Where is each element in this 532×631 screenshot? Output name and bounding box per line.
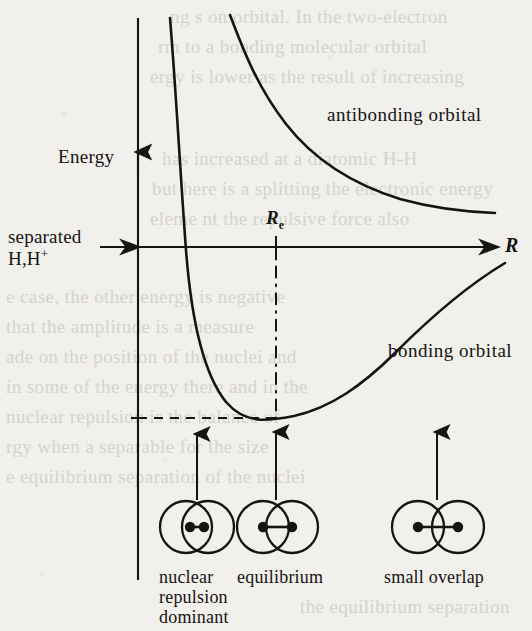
figure-root: ng s on orbital. In the two-electron rm … (0, 0, 532, 631)
nucleus-dot-right (453, 522, 463, 532)
separated-atoms-label: separated H,H+ (8, 226, 82, 270)
nucleus-dot-right (199, 522, 209, 532)
orbital-diagram-equilibrium (237, 501, 318, 553)
caption-nuclear-repulsion: nuclear repulsion dominant (159, 567, 229, 627)
orbital-diagram-nuclear-repulsion (160, 501, 234, 553)
separated-atoms-charge: + (41, 246, 49, 261)
re-symbol: R (266, 207, 279, 228)
nucleus-dot-right (287, 522, 297, 532)
separated-atoms-formula: H,H (8, 249, 41, 270)
nucleus-dot-left (413, 522, 423, 532)
bonding-orbital-label: bonding orbital (388, 340, 512, 361)
energy-axis-label: Energy (58, 146, 114, 167)
orbital-diagram-small-overlap (392, 501, 484, 553)
caption-line: repulsion (159, 587, 229, 607)
caption-small-overlap: small overlap (384, 567, 484, 587)
r-axis-label: R (505, 234, 518, 256)
nucleus-dot-left (185, 522, 195, 532)
caption-equilibrium: equilibrium (237, 567, 323, 587)
separated-atoms-line1: separated (8, 226, 82, 247)
equilibrium-distance-label: Re (266, 207, 284, 232)
caption-line: equilibrium (237, 567, 323, 587)
antibonding-orbital-label: antibonding orbital (327, 104, 482, 125)
figure-canvas (0, 0, 532, 631)
caption-line: small overlap (384, 567, 484, 587)
re-subscript: e (279, 218, 284, 232)
separated-atoms-line2: H,H+ (8, 247, 82, 270)
nucleus-dot-left (258, 522, 268, 532)
caption-line: dominant (159, 607, 229, 627)
caption-line: nuclear (159, 567, 229, 587)
